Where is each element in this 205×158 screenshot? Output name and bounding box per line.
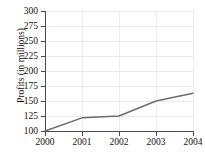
- y-axis-tick-label: 225: [14, 51, 38, 61]
- y-axis-tick: [41, 101, 46, 102]
- x-axis-tick-label: 2000: [28, 137, 62, 148]
- y-axis-tick-label: 200: [14, 66, 38, 76]
- y-axis-tick: [41, 116, 46, 117]
- x-axis-tick-label: 2004: [176, 137, 205, 148]
- y-axis-tick: [41, 26, 46, 27]
- y-axis-tick-label: 175: [14, 81, 38, 91]
- x-axis-tick-label: 2002: [102, 137, 136, 148]
- y-axis-tick: [41, 86, 46, 87]
- y-axis-tick: [41, 41, 46, 42]
- x-axis-tick: [156, 131, 157, 136]
- y-axis-tick-label: 300: [14, 6, 38, 16]
- gridline-vertical: [193, 11, 194, 131]
- line-chart: Profits (in millions) 100125150175200225…: [0, 0, 205, 158]
- y-axis-tick: [41, 71, 46, 72]
- y-axis-tick-label: 150: [14, 96, 38, 106]
- y-axis-tick-label: 100: [14, 126, 38, 136]
- x-axis-tick: [82, 131, 83, 136]
- y-axis-tick: [41, 56, 46, 57]
- y-axis-tick-label: 125: [14, 111, 38, 121]
- x-axis-tick-label: 2003: [139, 137, 173, 148]
- x-axis-tick-label: 2001: [65, 137, 99, 148]
- x-axis-tick: [45, 131, 46, 136]
- x-axis-tick: [119, 131, 120, 136]
- y-axis-tick-label: 250: [14, 36, 38, 46]
- x-axis-tick: [193, 131, 194, 136]
- y-axis-tick: [41, 11, 46, 12]
- y-axis-tick-label: 275: [14, 21, 38, 31]
- data-series-line: [45, 11, 193, 131]
